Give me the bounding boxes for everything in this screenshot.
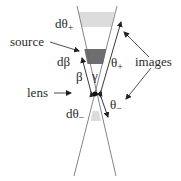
dbeta-label: dβ (57, 55, 70, 68)
beta-label: β (76, 70, 83, 83)
images-label: images (135, 55, 172, 68)
image-plus-band (79, 12, 115, 27)
theta-minus-label: θ− (110, 98, 122, 111)
dtheta-plus-label: dθ+ (55, 17, 73, 30)
theta-plus-label: θ+ (111, 56, 123, 69)
dtheta-minus-label: dθ− (66, 107, 84, 120)
lens-point (93, 92, 98, 97)
source-label: source (10, 35, 44, 48)
lens-label: lens (27, 86, 48, 99)
image-minus-band (91, 111, 101, 121)
source-pointer-arrow (50, 42, 79, 51)
lensing-diagram: dθ+ source dβ β γ θ+ images lens θ− dθ− (0, 0, 181, 181)
images-pointer-arrow-lower (126, 68, 151, 99)
gamma-label: γ (92, 69, 98, 82)
